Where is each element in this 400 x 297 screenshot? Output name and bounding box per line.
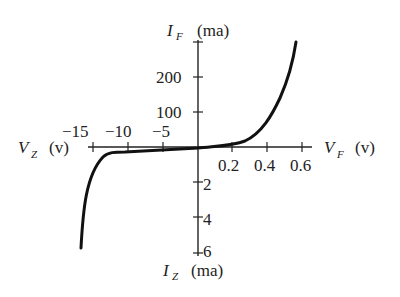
svg-text:V: V <box>324 138 337 157</box>
tick-label-0.6: 0.6 <box>290 156 311 175</box>
iv-curve <box>81 42 296 248</box>
svg-text:Z: Z <box>31 148 38 160</box>
tick-label-0.4: 0.4 <box>254 156 276 175</box>
tick-label-200: 200 <box>156 68 182 87</box>
svg-text:(ma): (ma) <box>197 21 229 40</box>
axis-title-vf: V F (v) <box>324 138 375 160</box>
svg-text:F: F <box>175 30 183 42</box>
tick-label-m10: −10 <box>105 122 132 141</box>
svg-text:F: F <box>336 148 344 160</box>
diode-characteristic-chart: 200 100 −15 −10 −5 0.2 0.4 0.6 2 4 6 I F… <box>0 0 400 297</box>
svg-text:(ma): (ma) <box>191 261 223 280</box>
tick-label-4: 4 <box>203 210 212 229</box>
axis-title-if: I F (ma) <box>166 21 229 42</box>
tick-label-0.2: 0.2 <box>218 156 239 175</box>
tick-label-100: 100 <box>156 103 182 122</box>
svg-text:I: I <box>162 261 170 280</box>
svg-text:Z: Z <box>172 270 179 282</box>
axis-title-iz: I Z (ma) <box>162 261 223 282</box>
tick-label-2: 2 <box>203 175 212 194</box>
tick-label-m5: −5 <box>152 122 170 141</box>
svg-text:(v): (v) <box>355 138 375 157</box>
svg-text:(v): (v) <box>49 138 69 157</box>
tick-label-6: 6 <box>203 242 212 261</box>
svg-text:V: V <box>18 138 31 157</box>
svg-text:I: I <box>166 21 174 40</box>
axis-title-vz: V Z (v) <box>18 138 69 160</box>
